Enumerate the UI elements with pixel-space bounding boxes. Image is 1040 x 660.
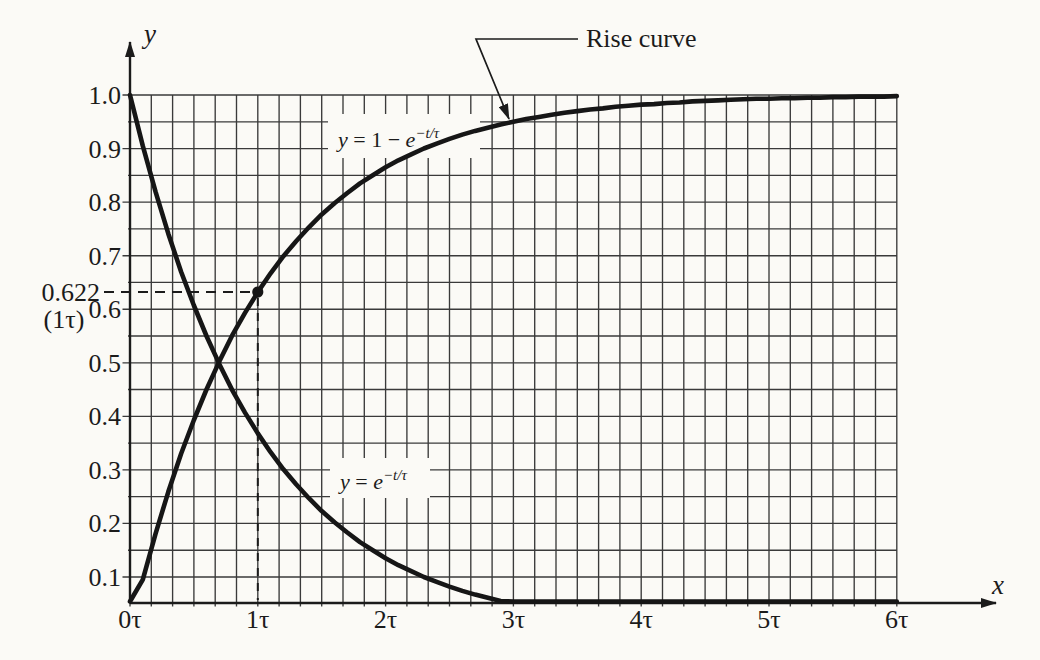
x-tick-1t: 1τ [246,605,269,634]
grid-layer [123,95,898,607]
rise-curve-callout-label: Rise curve [586,24,696,53]
x-tick-4t: 4τ [629,605,652,634]
y-tick-0.3: 0.3 [89,456,122,485]
y-axis-label: y [141,19,156,49]
y-tick-0.4: 0.4 [89,402,122,431]
y-tick-0.5: 0.5 [89,349,122,378]
annotation-tau-label: (1τ) [44,305,85,334]
y-tick-0.9: 0.9 [89,135,122,164]
x-tick-6t: 6τ [885,605,908,634]
x-tick-2t: 2τ [374,605,397,634]
point-marker-dot [252,286,263,297]
x-tick-0t: 0τ [118,605,141,634]
y-tick-0.2: 0.2 [89,509,122,538]
y-tick-0.7: 0.7 [89,242,122,271]
y-tick-1.0: 1.0 [89,81,122,110]
exponential-curves-chart: y x 1.0 0.9 0.8 0.7 0.6 0.5 0.4 0.3 0.2 … [0,0,1040,660]
x-tick-5t: 5τ [757,605,780,634]
annotation-value-label: 0.622 [42,278,101,307]
x-tick-3t: 3τ [502,605,525,634]
figure-canvas: y x 1.0 0.9 0.8 0.7 0.6 0.5 0.4 0.3 0.2 … [0,0,1040,660]
rise-curve-callout-arrow [476,39,578,119]
y-tick-0.8: 0.8 [89,188,122,217]
x-axis-label: x [991,570,1004,600]
y-tick-0.1: 0.1 [89,563,122,592]
